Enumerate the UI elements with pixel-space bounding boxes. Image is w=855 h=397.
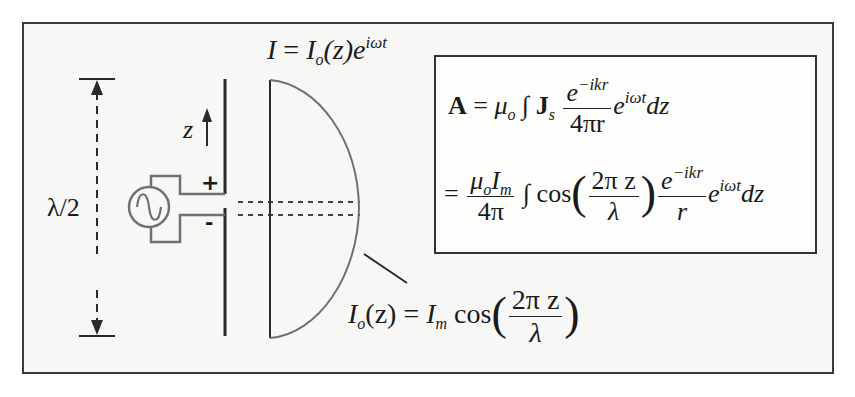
eq-term: o xyxy=(508,106,516,123)
eq-term: = xyxy=(473,91,488,120)
eq-term: A xyxy=(448,91,467,120)
current-equation: I = Io(z)eiωt xyxy=(267,36,387,64)
arrow-up-icon xyxy=(91,80,103,95)
fraction: 2π zλ xyxy=(589,166,639,227)
half-wavelength-dimension xyxy=(79,79,115,336)
eq-term: iωt xyxy=(720,176,741,195)
eq-term: e xyxy=(708,179,720,208)
eq-term: iωt xyxy=(365,33,386,52)
eq-term: m xyxy=(436,315,448,332)
arrow-down-icon xyxy=(91,320,103,335)
fraction: e−ikr4πr xyxy=(563,78,611,139)
eq-term: I xyxy=(426,298,435,329)
eq-term: e xyxy=(613,91,625,120)
eq-term: I xyxy=(267,34,276,65)
eq-term: s xyxy=(549,106,555,123)
eq-term: (z) xyxy=(365,298,396,329)
eq-term: cos xyxy=(454,298,491,329)
eq-term: μ xyxy=(494,91,507,120)
eq-term: cos xyxy=(537,179,572,208)
eq-term: J xyxy=(536,91,549,120)
eq-term: I xyxy=(348,298,357,329)
z-axis-arrow xyxy=(202,108,212,146)
fraction: e−ikrr xyxy=(658,166,706,227)
equation-line-2: = μoIm4π ∫ cos(2π zλ)e−ikrreiωtdz xyxy=(444,166,764,227)
fraction: μoIm4π xyxy=(467,166,514,227)
eq-term: = xyxy=(283,34,299,65)
feed-gap-dotted-lines xyxy=(238,202,360,215)
integral-sign: ∫ xyxy=(523,179,530,208)
fraction: 2π zλ xyxy=(509,284,563,349)
eq-term: = xyxy=(403,298,419,329)
plus-terminal-label: + xyxy=(201,170,219,195)
integral-sign: ∫ xyxy=(522,91,529,120)
leader-line xyxy=(364,254,407,283)
eq-term: (z)e xyxy=(323,34,365,65)
eq-term: o xyxy=(315,51,323,68)
eq-term: dz xyxy=(741,179,764,208)
z-axis-label: z xyxy=(183,115,193,145)
equation-line-1: A = μo ∫ Js e−ikr4πreiωtdz xyxy=(448,78,669,139)
arrow-up-icon xyxy=(202,108,212,122)
minus-terminal-label: - xyxy=(205,210,213,234)
current-distribution-equation: Io(z) = Im cos(2π zλ) xyxy=(348,284,580,349)
sine-wave-icon xyxy=(137,194,161,220)
half-wavelength-label: λ/2 xyxy=(47,193,80,223)
eq-term: = xyxy=(444,179,459,208)
eq-term: dz xyxy=(646,91,669,120)
eq-term: iωt xyxy=(625,88,646,107)
eq-term: o xyxy=(357,315,365,332)
